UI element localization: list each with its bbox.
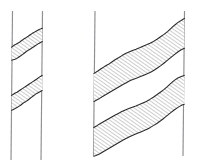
figure-root (0, 0, 197, 167)
strata-borehole-diagram (0, 0, 197, 167)
